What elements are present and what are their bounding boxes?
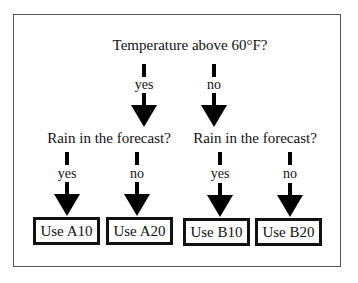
root-yes-label: yes: [135, 78, 154, 92]
left-no-arrowhead-icon: [124, 194, 150, 216]
right-no-arrowhead-icon: [277, 195, 303, 217]
right-yes-arrow-stub: [218, 152, 222, 165]
left-no-label: no: [130, 167, 144, 181]
left-subquestion: Rain in the forecast?: [47, 131, 171, 146]
outcome-box-b20: Use B20: [255, 218, 322, 246]
root-question: Temperature above 60°F?: [113, 38, 268, 53]
outcome-box-b10: Use B10: [183, 218, 250, 246]
root-yes-arrow-stub: [142, 64, 146, 77]
root-no-arrow-stub: [212, 64, 216, 77]
right-subquestion: Rain in the forecast?: [193, 131, 317, 146]
right-no-label: no: [283, 167, 297, 181]
outcome-box-a10: Use A10: [33, 217, 100, 245]
left-yes-arrow-stub: [65, 152, 69, 165]
left-yes-arrowhead-icon: [54, 194, 80, 216]
left-no-arrow-stub: [135, 152, 139, 165]
root-yes-arrowhead-icon: [131, 105, 157, 127]
left-yes-label: yes: [58, 167, 77, 181]
right-yes-arrowhead-icon: [207, 195, 233, 217]
root-no-arrowhead-icon: [201, 105, 227, 127]
root-no-label: no: [207, 78, 221, 92]
outcome-box-a20: Use A20: [106, 217, 173, 245]
right-no-arrow-stub: [288, 152, 292, 165]
right-yes-label: yes: [211, 167, 230, 181]
